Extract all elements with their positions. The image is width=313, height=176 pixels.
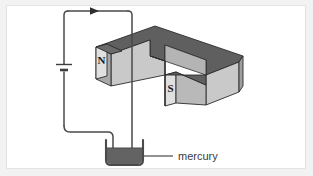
wire-left-upper-segment [64,11,68,64]
figure-root: N S [0,0,313,176]
magnet-circuit-diagram: N S [0,0,313,176]
north-pole-label: N [98,54,106,66]
mercury-liquid [107,148,142,164]
south-pole-label: S [167,82,173,94]
mercury-trough [106,140,143,165]
current-direction-arrow [90,7,99,15]
mercury-label: mercury [178,150,218,162]
u-shaped-magnet: N S [96,26,243,106]
magnet-right-outer-side-face [239,56,243,92]
battery-cell-symbol [56,65,72,71]
